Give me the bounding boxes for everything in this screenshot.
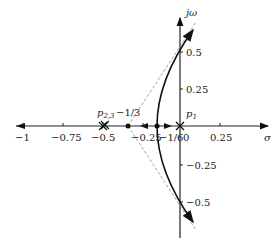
tick-real-neg025: −0.25 <box>131 132 162 143</box>
arrow-right-icon <box>140 123 148 129</box>
arrow-left-icon <box>164 123 172 129</box>
tick-imag-neg025: −0.25 <box>186 160 217 171</box>
pole-p23-label: p2,3 <box>97 107 115 120</box>
pole-p1-label: p1 <box>186 108 197 121</box>
breakaway-point <box>155 124 160 129</box>
tick-real-neg1: −1 <box>15 132 30 143</box>
centroid-label: −1/3 <box>116 107 140 118</box>
imag-axis-label: jω <box>184 7 197 18</box>
tick-imag-05: 0.5 <box>186 47 202 58</box>
tick-real-025: 0.25 <box>210 132 232 143</box>
real-axis-label: σ <box>264 132 272 143</box>
tick-real-neg075: −0.75 <box>51 132 82 143</box>
root-locus-diagram: jω σ −1 −0.75 −0.5 −0.25 0 0.25 0.5 0.25… <box>0 0 278 249</box>
tick-real-0: 0 <box>183 132 189 143</box>
tick-imag-neg05: −0.5 <box>186 197 210 208</box>
tick-imag-025: 0.25 <box>186 84 208 95</box>
tick-real-neg05: −0.5 <box>91 132 115 143</box>
centroid-point <box>126 124 131 129</box>
breakaway-label: −1/6 <box>159 132 183 143</box>
